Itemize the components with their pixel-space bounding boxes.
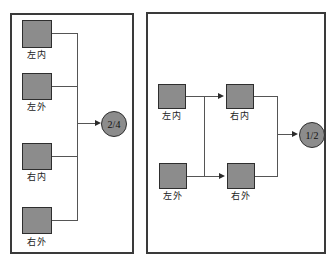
wire-right-node1-to-link	[186, 96, 204, 97]
output-node-right: 1/2	[299, 122, 325, 148]
node-box-left-1	[22, 20, 52, 48]
arrow-head-right-output	[292, 131, 298, 137]
wire-left-node4-to-bus	[52, 220, 77, 221]
arrow-head-right-node2	[218, 93, 224, 99]
node-label-right-4: 右外	[226, 191, 256, 202]
wire-left-node2-to-bus	[52, 86, 77, 87]
wire-left-bus-to-output	[77, 123, 97, 124]
wire-right-node3-to-link	[187, 176, 204, 177]
node-label-left-4: 右外	[22, 237, 52, 248]
panel-right: 左内 右内 左外 右外 1/2	[146, 12, 326, 254]
wire-right-vertical-link	[204, 96, 205, 176]
node-box-left-3	[22, 143, 52, 170]
diagram-canvas: 左内 左外 右内 右外 2/4 左内 右内 左外	[0, 0, 336, 267]
wire-right-vertical-bus	[277, 96, 278, 177]
wire-left-node1-to-bus	[52, 33, 77, 34]
node-box-right-1	[158, 84, 186, 109]
node-label-left-2: 左外	[22, 102, 52, 113]
output-node-left: 2/4	[101, 111, 127, 137]
node-label-right-1: 左内	[157, 111, 187, 122]
node-box-left-2	[22, 73, 52, 100]
node-label-left-3: 右内	[22, 172, 52, 183]
panel-left: 左内 左外 右内 右外 2/4	[10, 13, 134, 254]
node-box-right-2	[226, 84, 254, 109]
node-box-left-4	[22, 207, 52, 234]
node-box-right-4	[227, 163, 255, 189]
wire-left-vertical-bus	[77, 33, 78, 221]
node-label-left-1: 左内	[22, 50, 52, 61]
node-label-right-2: 右内	[225, 111, 255, 122]
arrow-head-right-node4	[219, 173, 225, 179]
node-box-right-3	[159, 163, 187, 189]
wire-right-node4-to-bus	[255, 176, 277, 177]
wire-right-node2-to-bus	[254, 96, 277, 97]
node-label-right-3: 左外	[158, 191, 188, 202]
wire-left-node3-to-bus	[52, 156, 77, 157]
